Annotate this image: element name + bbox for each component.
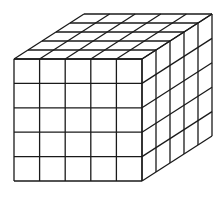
cube-front-face <box>14 59 142 181</box>
right-grid-line <box>142 112 212 157</box>
right-grid-line <box>142 136 212 181</box>
right-grid-line <box>142 87 212 132</box>
cube-top-face <box>14 14 212 59</box>
right-grid-line <box>142 38 212 83</box>
cube-diagram <box>0 0 223 198</box>
cube-right-face <box>142 14 212 181</box>
right-grid-line <box>142 63 212 108</box>
